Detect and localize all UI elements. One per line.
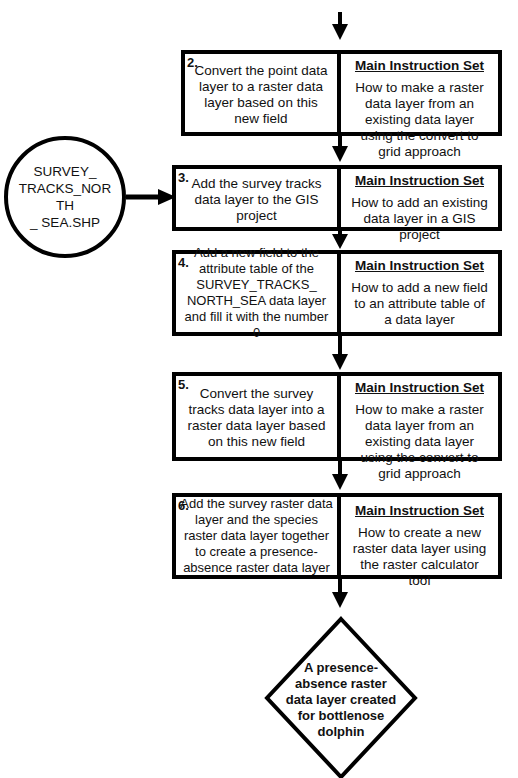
step-action-text: Add a new field to the attribute table o…	[180, 245, 333, 341]
step-number: 6.	[178, 498, 189, 514]
instruction-heading: Main Instruction Set	[355, 503, 484, 519]
instruction-heading: Main Instruction Set	[355, 173, 484, 189]
step-action-text: Add the survey tracks data layer to the …	[184, 172, 329, 224]
input-shapefile-node: SURVEY_TRACKS_NORTH_ SEA.SHP	[4, 136, 126, 258]
step-2-action: 2. Convert the point data layer to a ras…	[185, 54, 341, 132]
step-5-box: 5. Convert the survey tracks data layer …	[172, 372, 502, 461]
instruction-text: How to make a raster data layer from an …	[349, 402, 490, 482]
step-2-box: 2. Convert the point data layer to a ras…	[181, 50, 502, 136]
step-3-instruction: Main Instruction Set How to add an exist…	[341, 169, 498, 227]
instruction-heading: Main Instruction Set	[355, 380, 484, 396]
instruction-heading: Main Instruction Set	[355, 58, 484, 74]
instruction-heading: Main Instruction Set	[355, 258, 484, 274]
step-number: 5.	[178, 377, 189, 393]
step-action-text: Add the survey raster data layer and the…	[180, 496, 333, 576]
step-number: 4.	[178, 255, 189, 271]
step-number: 3.	[178, 170, 189, 186]
step-action-text: Convert the survey tracks data layer int…	[184, 384, 329, 450]
step-number: 2.	[187, 55, 198, 71]
step-6-instruction: Main Instruction Set How to create a new…	[341, 497, 498, 575]
step-6-box: 6. Add the survey raster data layer and …	[172, 493, 502, 579]
instruction-text: How to create a new raster data layer us…	[349, 525, 490, 589]
step-4-instruction: Main Instruction Set How to add a new fi…	[341, 254, 498, 332]
step-3-action: 3. Add the survey tracks data layer to t…	[176, 169, 341, 227]
instruction-text: How to add a new field to an attribute t…	[349, 280, 490, 328]
output-node-text: A presence-absence raster data layer cre…	[285, 660, 397, 740]
input-node-label: SURVEY_TRACKS_NORTH_ SEA.SHP	[17, 163, 113, 231]
instruction-text: How to make a raster data layer from an …	[349, 80, 490, 160]
instruction-text: How to add an existing data layer in a G…	[349, 195, 490, 243]
step-2-instruction: Main Instruction Set How to make a raste…	[341, 54, 498, 132]
step-3-box: 3. Add the survey tracks data layer to t…	[172, 165, 502, 231]
step-4-box: 4. Add a new field to the attribute tabl…	[172, 250, 502, 336]
step-5-instruction: Main Instruction Set How to make a raste…	[341, 376, 498, 457]
output-node-label: A presence-absence raster data layer cre…	[271, 660, 411, 740]
step-action-text: Convert the point data layer to a raster…	[193, 59, 329, 127]
step-4-action: 4. Add a new field to the attribute tabl…	[176, 254, 341, 332]
step-6-action: 6. Add the survey raster data layer and …	[176, 497, 341, 575]
step-5-action: 5. Convert the survey tracks data layer …	[176, 376, 341, 457]
